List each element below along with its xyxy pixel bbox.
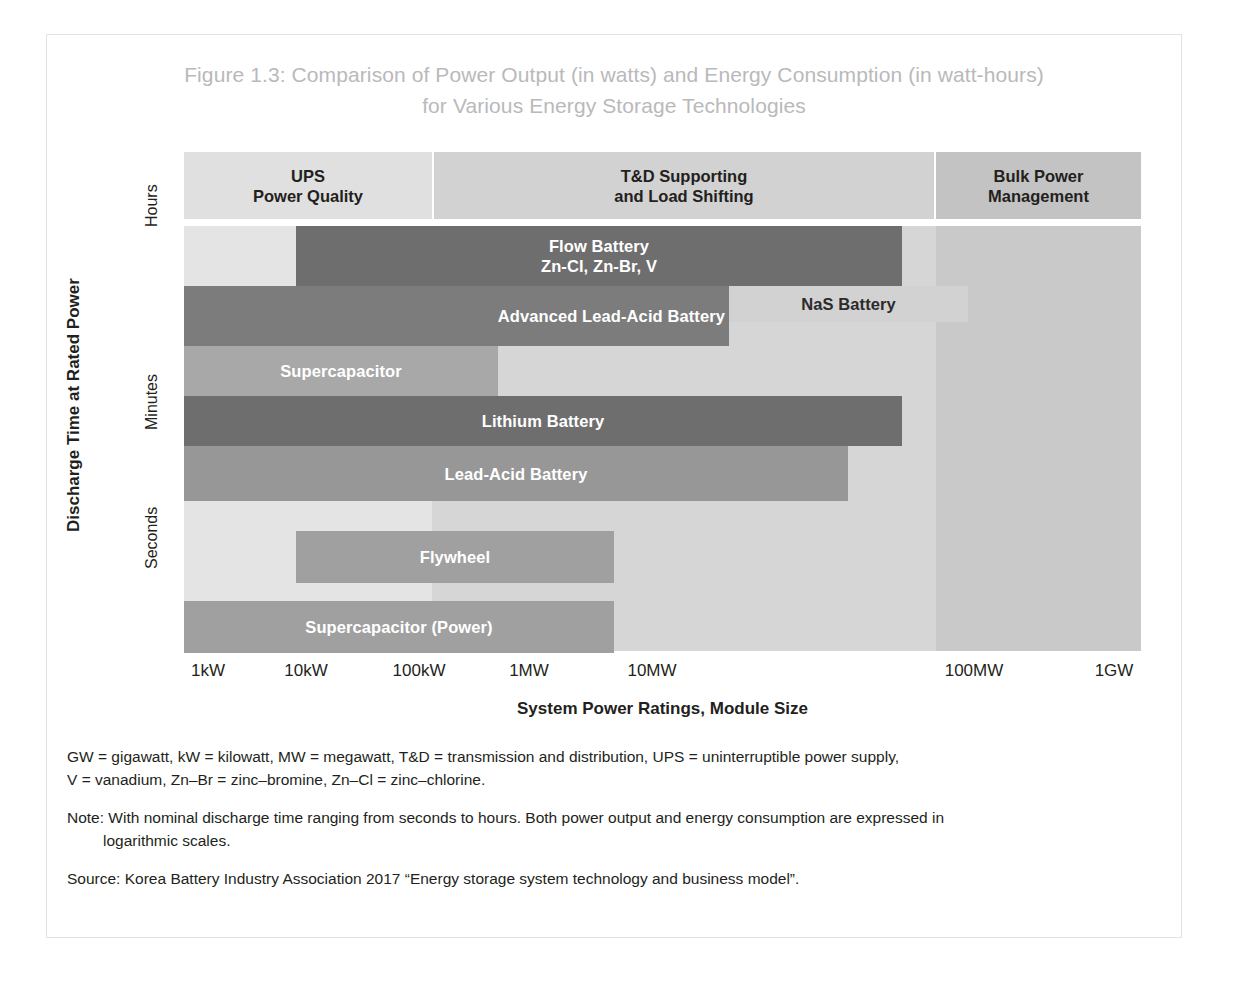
bar-label-nas-battery: NaS Battery bbox=[729, 294, 968, 314]
y-axis-ticks: Hours Minutes Seconds bbox=[143, 152, 177, 651]
source-line: Source: Korea Battery Industry Associati… bbox=[67, 867, 1167, 890]
band-td-line-1: T&D Supporting bbox=[614, 166, 753, 186]
y-tick-hours: Hours bbox=[143, 160, 177, 252]
x-axis-title: System Power Ratings, Module Size bbox=[184, 699, 1141, 719]
note-line-1: Note: With nominal discharge time rangin… bbox=[67, 806, 1167, 829]
bar-label-supercapacitor: Supercapacitor bbox=[184, 361, 498, 381]
band-bulk-line-2: Management bbox=[988, 186, 1089, 206]
abbrev-line-1: GW = gigawatt, kW = kilowatt, MW = megaw… bbox=[67, 745, 1167, 768]
bar-label-lead-acid-battery: Lead-Acid Battery bbox=[184, 464, 848, 484]
x-tick-10kw: 10kW bbox=[284, 661, 327, 681]
x-tick-100mw: 100MW bbox=[945, 661, 1004, 681]
bar-label-flywheel: Flywheel bbox=[296, 547, 614, 567]
band-bulk-power: Bulk Power Management bbox=[936, 152, 1141, 219]
bar-advanced-lead-acid-battery[interactable]: Advanced Lead-Acid Battery bbox=[184, 286, 729, 346]
y-tick-minutes: Minutes bbox=[143, 348, 177, 456]
bar-flow-battery[interactable]: Flow BatteryZn-Cl, Zn-Br, V bbox=[296, 226, 902, 286]
bar-label-supercapacitor-power: Supercapacitor (Power) bbox=[184, 617, 614, 637]
plot-region: UPS Power Quality T&D Supporting and Loa… bbox=[184, 152, 1141, 651]
band-ups-power-quality: UPS Power Quality bbox=[184, 152, 432, 219]
bar-label-flow-battery: Flow BatteryZn-Cl, Zn-Br, V bbox=[296, 236, 902, 276]
band-bulk-line-1: Bulk Power bbox=[988, 166, 1089, 186]
y-axis-title: Discharge Time at Rated Power bbox=[61, 225, 87, 585]
technology-bars: Flow BatteryZn-Cl, Zn-Br, V Advanced Lea… bbox=[184, 226, 1141, 651]
application-band-row: UPS Power Quality T&D Supporting and Loa… bbox=[184, 152, 1141, 219]
bar-flywheel[interactable]: Flywheel bbox=[296, 531, 614, 583]
note-line-2: logarithmic scales. bbox=[67, 829, 1167, 852]
bar-lithium-battery[interactable]: Lithium Battery bbox=[184, 396, 902, 446]
y-tick-seconds: Seconds bbox=[143, 482, 177, 594]
source-note: Source: Korea Battery Industry Associati… bbox=[67, 867, 1167, 890]
band-ups-line-1: UPS bbox=[253, 166, 363, 186]
x-tick-1mw: 1MW bbox=[509, 661, 549, 681]
band-td-line-2: and Load Shifting bbox=[614, 186, 753, 206]
bar-supercapacitor[interactable]: Supercapacitor bbox=[184, 346, 498, 396]
bar-label-advanced-lead-acid-battery: Advanced Lead-Acid Battery bbox=[492, 306, 729, 326]
figure-frame: Figure 1.3: Comparison of Power Output (… bbox=[46, 34, 1182, 938]
abbreviations-note: GW = gigawatt, kW = kilowatt, MW = megaw… bbox=[67, 745, 1167, 791]
x-tick-1kw: 1kW bbox=[191, 661, 225, 681]
bar-flow-line-2: Zn-Cl, Zn-Br, V bbox=[541, 257, 657, 275]
x-tick-100kw: 100kW bbox=[393, 661, 446, 681]
bar-label-lithium-battery: Lithium Battery bbox=[184, 411, 902, 431]
bar-lead-acid-battery[interactable]: Lead-Acid Battery bbox=[184, 446, 848, 501]
band-td-supporting: T&D Supporting and Load Shifting bbox=[434, 152, 934, 219]
abbrev-line-2: V = vanadium, Zn–Br = zinc–bromine, Zn–C… bbox=[67, 768, 1167, 791]
figure-notes: GW = gigawatt, kW = kilowatt, MW = megaw… bbox=[67, 745, 1167, 905]
x-tick-1gw: 1GW bbox=[1095, 661, 1134, 681]
bar-flow-line-1: Flow Battery bbox=[549, 237, 649, 255]
general-note: Note: With nominal discharge time rangin… bbox=[67, 806, 1167, 852]
band-ups-line-2: Power Quality bbox=[253, 186, 363, 206]
bar-supercapacitor-power[interactable]: Supercapacitor (Power) bbox=[184, 601, 614, 653]
x-tick-10mw: 10MW bbox=[627, 661, 676, 681]
x-axis-ticks: 1kW 10kW 100kW 1MW 10MW 100MW 1GW bbox=[184, 661, 1141, 687]
bar-nas-battery[interactable]: NaS Battery bbox=[729, 286, 968, 322]
